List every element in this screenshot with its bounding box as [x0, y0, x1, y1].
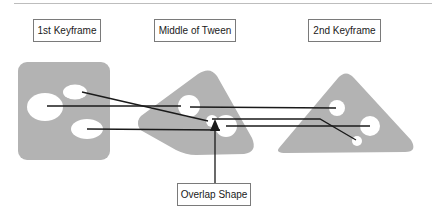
- first-keyframe-shape: [18, 62, 110, 160]
- label-overlap-shape: Overlap Shape: [177, 183, 251, 206]
- middle-tween-shape: [138, 70, 254, 155]
- second-keyframe-shape: [278, 74, 414, 154]
